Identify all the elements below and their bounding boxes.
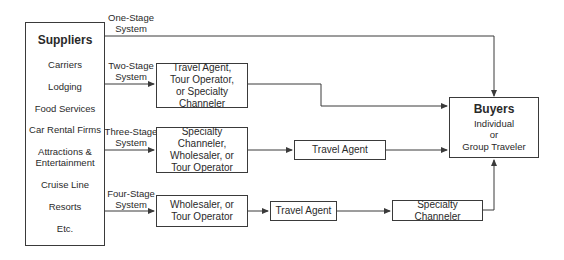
supplier-attractions: Attractions & Entertainment: [35, 146, 94, 168]
supplier-car-rental: Car Rental Firms: [29, 124, 101, 135]
four-stage-travel-agent-box: Travel Agent: [270, 201, 337, 221]
buyers-group: Group Traveler: [462, 141, 525, 153]
buyers-individual: Individual: [474, 118, 514, 130]
label-line: System: [105, 23, 157, 34]
box-text: Wholesaler, or Tour Operator: [165, 199, 239, 223]
buyers-title: Buyers: [474, 103, 515, 115]
two-stage-label: Two-Stage System: [105, 60, 157, 82]
label-line: Three-Stage: [103, 126, 159, 137]
four-stage-specialty-channeler-box: Specialty Channeler: [392, 200, 483, 221]
supplier-food-services: Food Services: [35, 103, 96, 114]
label-line: Two-Stage: [105, 60, 157, 71]
label-line: System: [103, 137, 159, 148]
label-line: System: [105, 199, 157, 210]
suppliers-title: Suppliers: [38, 34, 93, 46]
three-stage-label: Three-Stage System: [103, 126, 159, 148]
supplier-resorts: Resorts: [49, 201, 82, 212]
label-line: Four-Stage: [105, 188, 157, 199]
supplier-carriers: Carriers: [48, 59, 82, 70]
box-text: Specialty Channeler, Wholesaler, or Tour…: [163, 126, 241, 174]
buyers-or: or: [490, 129, 498, 141]
three-stage-travel-agent-box: Travel Agent: [294, 140, 386, 160]
buyers-box: Buyers Individual or Group Traveler: [449, 97, 539, 158]
label-line: System: [105, 71, 157, 82]
supplier-cruise-line: Cruise Line: [41, 179, 89, 190]
one-stage-label: One-Stage System: [105, 12, 157, 34]
box-text: Travel Agent: [276, 205, 332, 217]
supplier-lodging: Lodging: [48, 81, 82, 92]
four-stage-first-box: Wholesaler, or Tour Operator: [156, 195, 248, 227]
box-text: Travel Agent, Tour Operator, or Specialt…: [165, 62, 239, 110]
four-stage-label: Four-Stage System: [105, 188, 157, 210]
label-line: One-Stage: [105, 12, 157, 23]
three-stage-first-box: Specialty Channeler, Wholesaler, or Tour…: [156, 127, 248, 173]
box-text: Specialty Channeler: [393, 199, 482, 223]
box-text: Travel Agent: [312, 144, 368, 156]
two-stage-intermediary-box: Travel Agent, Tour Operator, or Specialt…: [156, 63, 248, 108]
suppliers-box: Suppliers Carriers Lodging Food Services…: [25, 22, 105, 246]
supplier-etc: Etc.: [57, 223, 73, 234]
